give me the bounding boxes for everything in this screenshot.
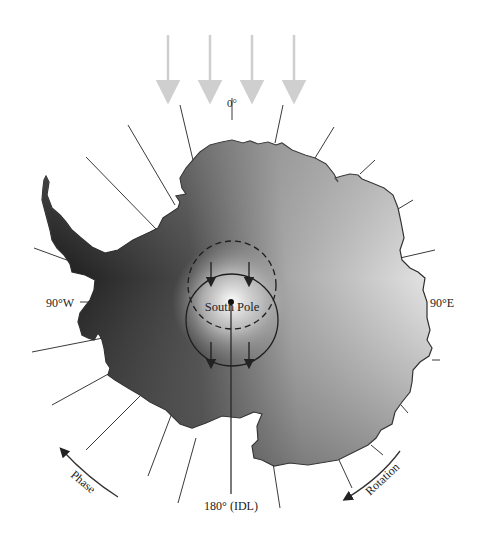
- incoming-arrows: [168, 35, 294, 92]
- label-rotation: Rotation: [362, 460, 402, 498]
- label-180-idl: 180° (IDL): [204, 499, 258, 513]
- label-90e: 90°E: [430, 296, 454, 310]
- antarctica-diagram: 0° 90°W 90°E 180° (IDL) South Pole Phase…: [0, 0, 489, 536]
- label-90w: 90°W: [46, 296, 75, 310]
- label-phase: Phase: [68, 468, 98, 497]
- label-south-pole: South Pole: [205, 300, 260, 314]
- label-0-deg: 0°: [227, 97, 237, 109]
